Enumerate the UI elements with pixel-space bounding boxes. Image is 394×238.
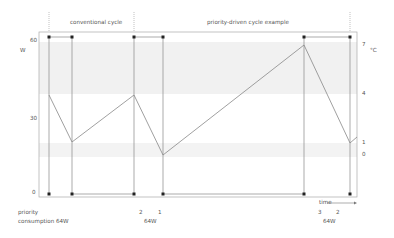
consumption-row-label: consumption <box>18 219 54 225</box>
left-axis-unit: W <box>20 48 26 54</box>
time-arrow-head <box>354 202 357 205</box>
time-label: time <box>319 200 332 206</box>
priority-cycle-label: priority-driven cycle example <box>207 20 289 26</box>
consumption-value: 64W <box>323 219 336 225</box>
left-axis-tick-30: 30 <box>30 116 37 122</box>
consumption-value: 64W <box>56 219 69 225</box>
priority-value: 3 <box>318 210 322 216</box>
right-axis-unit: °C <box>370 48 377 54</box>
conventional-cycle-label: conventional cycle <box>70 20 122 26</box>
right-axis-tick-7: 7 <box>362 42 366 48</box>
priority-value: 1 <box>158 210 162 216</box>
right-axis-tick-0: 0 <box>362 152 366 158</box>
left-axis-tick-60: 60 <box>30 38 37 44</box>
priority-value: 2 <box>139 210 143 216</box>
cycle-diagram <box>0 0 394 238</box>
right-axis-tick-4: 4 <box>362 91 366 97</box>
priority-row-label: priority <box>18 210 38 216</box>
right-axis-tick-1: 1 <box>362 140 366 146</box>
background-band-upper <box>39 42 357 94</box>
background-band-lower <box>39 143 357 157</box>
left-axis-tick-0: 0 <box>32 190 36 196</box>
priority-value: 2 <box>336 210 340 216</box>
consumption-value: 64W <box>144 219 157 225</box>
